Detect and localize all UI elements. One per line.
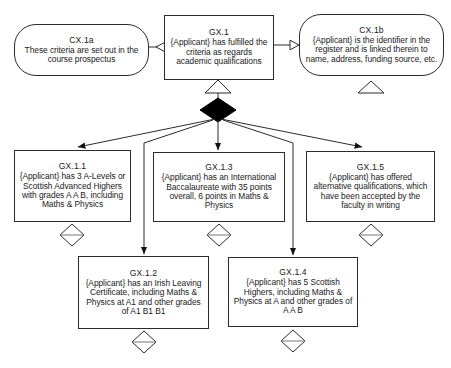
node-gx15[interactable]: GX.1.5 {Applicant} has offered alternati… [306, 151, 435, 222]
marker-gx14-diamond [281, 330, 305, 352]
node-gx12-id: GX.1.2 [130, 269, 157, 279]
node-gx12-text: {Applicant} has an Irish Leaving Certifi… [79, 279, 208, 317]
node-cx1b-text: {Applicant} is the identifier in the reg… [300, 36, 443, 64]
node-gx13[interactable]: GX.1.3 {Applicant} has an International … [153, 152, 285, 222]
edge-choice-to-gx11 [78, 119, 215, 147]
edge-gx1-to-cx1b [274, 40, 299, 50]
node-cx1b-id: CX.1b [359, 26, 383, 36]
node-gx11[interactable]: GX.1.1 {Applicant} has 3 A-Levels or Sco… [14, 150, 131, 222]
node-gx14[interactable]: GX.1.4 {Applicant} has 5 Scottish Higher… [228, 257, 358, 327]
node-cx1b[interactable]: CX.1b {Applicant} is the identifier in t… [299, 14, 444, 76]
edge-gx1-to-cx1a [149, 42, 165, 52]
marker-gx11-diamond [60, 224, 84, 246]
diagram-canvas: CX.1a These criteria are set out in the … [0, 0, 451, 368]
node-gx15-text: {Applicant} has offered alternative qual… [307, 173, 434, 211]
node-cx1a[interactable]: CX.1a These criteria are set out in the … [14, 24, 149, 76]
marker-gx15-diamond [359, 224, 383, 246]
node-gx14-text: {Applicant} has 5 Scottish Highers, incl… [229, 278, 357, 316]
choice-diamond [200, 98, 236, 122]
node-cx1a-id: CX.1a [69, 36, 93, 46]
node-gx1[interactable]: GX.1 {Applicant} has fulfilled the crite… [164, 15, 274, 80]
node-gx13-text: {Applicant} has an International Baccala… [154, 173, 284, 211]
marker-gx13-diamond [207, 224, 231, 246]
node-gx11-text: {Applicant} has 3 A-Levels or Scottish A… [15, 172, 130, 210]
node-gx1-text: {Applicant} has fulfilled the criteria a… [165, 38, 273, 66]
undeveloped-marker-cx1b [358, 81, 384, 93]
node-gx12[interactable]: GX.1.2 {Applicant} has an Irish Leaving … [78, 256, 209, 329]
node-gx15-id: GX.1.5 [357, 163, 384, 173]
undeveloped-marker-gx1 [205, 80, 231, 100]
marker-gx12-diamond [132, 331, 156, 353]
node-cx1a-text: These criteria are set out in the course… [15, 46, 148, 65]
